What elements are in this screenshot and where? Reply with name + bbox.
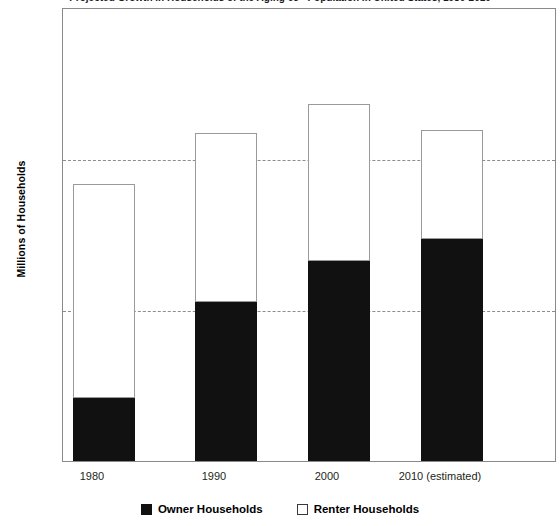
owner-swatch-icon — [141, 504, 152, 515]
bar-segment-renter-1980[interactable] — [73, 184, 135, 398]
x-tick-label-1990: 1990 — [164, 470, 264, 482]
bar-segment-renter-2000[interactable] — [308, 104, 370, 261]
bar-2010[interactable] — [421, 130, 483, 461]
bar-segment-renter-1990[interactable] — [195, 133, 257, 302]
legend: Owner Households Renter Households — [0, 503, 560, 515]
legend-label-owner: Owner Households — [158, 503, 263, 515]
bar-segment-owner-2000[interactable] — [308, 261, 370, 461]
bar-segment-owner-1980[interactable] — [73, 398, 135, 461]
chart-title: Projected Growth in Households of the Ag… — [0, 0, 560, 5]
bar-segment-renter-2010[interactable] — [421, 130, 483, 239]
x-tick-label-1980: 1980 — [42, 470, 142, 482]
legend-label-renter: Renter Households — [314, 503, 419, 515]
bar-2000[interactable] — [308, 104, 370, 461]
legend-item-renter[interactable]: Renter Households — [297, 503, 419, 515]
bar-1980[interactable] — [73, 184, 135, 461]
plot-area — [62, 8, 556, 462]
x-tick-label-2000: 2000 — [277, 470, 377, 482]
bar-1990[interactable] — [195, 133, 257, 461]
y-axis-title: Millions of Households — [15, 129, 27, 309]
x-tick-label-2010: 2010 (estimated) — [390, 470, 490, 482]
bar-segment-owner-2010[interactable] — [421, 239, 483, 461]
renter-swatch-icon — [297, 504, 308, 515]
bar-segment-owner-1990[interactable] — [195, 302, 257, 461]
legend-item-owner[interactable]: Owner Households — [141, 503, 263, 515]
